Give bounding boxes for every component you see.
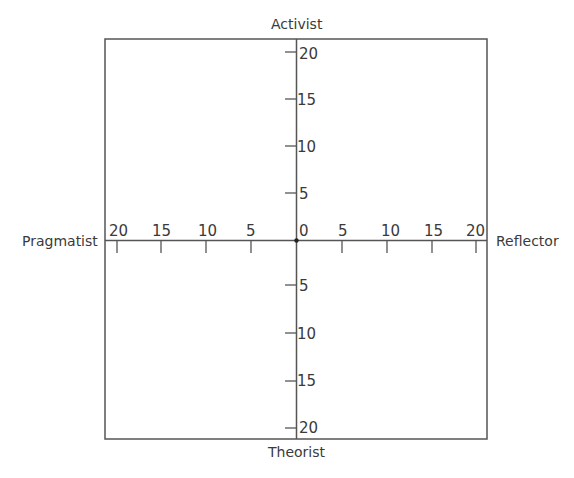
label-right-reflector: Reflector [496, 233, 559, 249]
htick-right-20: 20 [466, 223, 485, 239]
htick-left-20: 20 [109, 223, 128, 239]
htick-right-15: 15 [424, 223, 443, 239]
htick-left-10: 10 [198, 223, 217, 239]
htick-left-15: 15 [152, 223, 171, 239]
vtick-bottom-15: 15 [297, 373, 316, 389]
htick-right-0: 0 [299, 223, 309, 239]
htick-right-10: 10 [381, 223, 400, 239]
vtick-bottom-20: 20 [299, 420, 318, 436]
vtick-top-10: 10 [297, 139, 316, 155]
vtick-top-15: 15 [297, 92, 316, 108]
label-left-pragmatist: Pragmatist [22, 233, 98, 249]
vtick-top-20: 20 [299, 46, 318, 62]
label-top-activist: Activist [271, 16, 322, 32]
htick-right-5: 5 [338, 223, 348, 239]
vtick-bottom-5: 5 [299, 278, 309, 294]
htick-left-5: 5 [246, 223, 256, 239]
vtick-top-5: 5 [299, 186, 309, 202]
vtick-bottom-10: 10 [297, 326, 316, 342]
label-bottom-theorist: Theorist [268, 444, 325, 460]
